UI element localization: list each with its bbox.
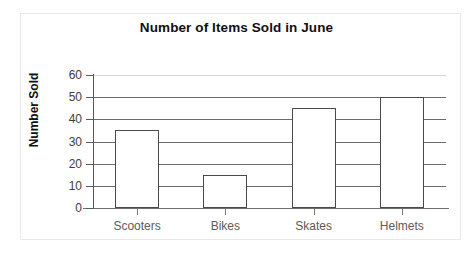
y-tick-mark-10 <box>86 186 94 187</box>
gridline-60 <box>93 75 446 76</box>
bar-scooters[interactable] <box>115 130 159 208</box>
y-tick-label-30: 30 <box>56 136 82 148</box>
y-tick-label-50: 50 <box>56 91 82 103</box>
y-tick-mark-50 <box>86 97 94 98</box>
x-axis-label-helmets: Helmets <box>358 219 446 233</box>
y-tick-label-10: 10 <box>56 180 82 192</box>
y-tick-label-0: 0 <box>56 202 82 214</box>
x-axis-label-bikes: Bikes <box>181 219 269 233</box>
plot-area <box>93 75 446 208</box>
y-axis-label: Number Sold <box>27 65 41 155</box>
y-tick-mark-20 <box>86 164 94 165</box>
y-axis-tick-labels: 0102030405060 <box>52 0 82 255</box>
y-tick-mark-0 <box>86 208 94 209</box>
bar-chart-figure: Number of Items Sold in June Number Sold… <box>0 0 473 255</box>
y-tick-label-40: 40 <box>56 113 82 125</box>
y-tick-mark-30 <box>86 142 94 143</box>
y-tick-mark-60 <box>86 75 94 76</box>
y-tick-mark-40 <box>86 119 94 120</box>
x-tick-mark-helmets <box>402 208 403 215</box>
x-tick-mark-skates <box>314 208 315 215</box>
x-axis-label-skates: Skates <box>270 219 358 233</box>
x-tick-mark-bikes <box>225 208 226 215</box>
y-tick-label-60: 60 <box>56 69 82 81</box>
x-axis-label-scooters: Scooters <box>93 219 181 233</box>
x-tick-mark-scooters <box>137 208 138 215</box>
bar-helmets[interactable] <box>380 97 424 208</box>
y-tick-label-20: 20 <box>56 158 82 170</box>
bar-bikes[interactable] <box>203 175 247 208</box>
bar-skates[interactable] <box>292 108 336 208</box>
